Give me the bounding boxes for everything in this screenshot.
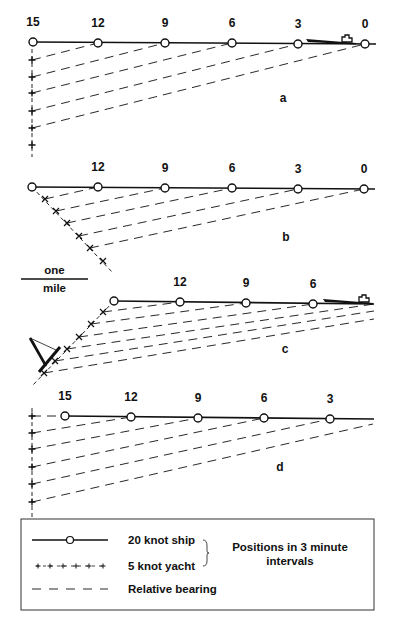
ship-time-label: 3 bbox=[327, 392, 334, 406]
bearing-line bbox=[90, 189, 364, 248]
legend-label-yacht: 5 knot yacht bbox=[128, 560, 195, 572]
bearing-line bbox=[32, 44, 365, 128]
yacht-position-plus-icon bbox=[29, 74, 36, 81]
legend-yacht-plus-icon bbox=[36, 564, 41, 569]
yacht-position-plus-icon bbox=[29, 108, 36, 115]
ship-position-circle-icon bbox=[29, 38, 37, 46]
ship-time-label: 6 bbox=[261, 391, 268, 405]
bearing-line bbox=[79, 189, 298, 236]
bearing-line bbox=[32, 43, 98, 60]
ship-time-label: 15 bbox=[58, 389, 72, 403]
legend-brace-icon bbox=[203, 540, 209, 566]
panel-label: c bbox=[282, 342, 289, 356]
sailboat-sail-inner bbox=[33, 341, 44, 363]
ship-position-circle-icon bbox=[294, 185, 302, 193]
bearing-line bbox=[45, 187, 98, 199]
ship-position-circle-icon bbox=[194, 414, 202, 422]
ship-position-circle-icon bbox=[361, 40, 369, 48]
yacht-position-plus-icon bbox=[29, 57, 36, 64]
ship-position-circle-icon bbox=[127, 413, 135, 421]
yacht-position-plus-icon bbox=[29, 481, 36, 488]
diagram-panel-d: 1512963d bbox=[29, 389, 375, 519]
yacht-position-plus-icon bbox=[29, 430, 36, 437]
legend-yacht-plus-icon bbox=[74, 564, 79, 569]
ship-time-label: 0 bbox=[362, 17, 369, 31]
yacht-position-plus-icon bbox=[29, 90, 36, 97]
yacht-position-plus-icon bbox=[29, 142, 36, 149]
legend-note-line1: Positions in 3 minute bbox=[232, 541, 348, 553]
scale-bar-bottom-label: mile bbox=[43, 282, 66, 294]
bearing-line bbox=[32, 419, 330, 484]
bearing-line bbox=[91, 303, 246, 324]
legend-label-ship: 20 knot ship bbox=[128, 534, 195, 546]
legend-note-line2: intervals bbox=[266, 555, 313, 567]
figure-canvas: 15129630a129630b1296c1512963d one mile 2… bbox=[0, 0, 396, 631]
ship-time-label: 12 bbox=[91, 16, 105, 30]
ship-position-circle-icon bbox=[61, 412, 69, 420]
legend-yacht-plus-icon bbox=[87, 564, 92, 569]
bearing-line bbox=[32, 44, 298, 111]
ship-time-label: 9 bbox=[162, 161, 169, 175]
legend-box bbox=[21, 519, 374, 610]
bearing-line bbox=[32, 424, 373, 502]
ship-time-label: 9 bbox=[195, 391, 202, 405]
scale-bar: one mile bbox=[21, 264, 88, 294]
ship-track-line bbox=[32, 187, 375, 189]
ship-position-circle-icon bbox=[294, 40, 302, 48]
relative-bearing-figure: 15129630a129630b1296c1512963d one mile 2… bbox=[0, 0, 396, 631]
ship-position-circle-icon bbox=[242, 299, 250, 307]
ship-time-label: 12 bbox=[91, 160, 105, 174]
sailboat-icon bbox=[30, 338, 60, 372]
bearing-line bbox=[32, 43, 232, 93]
diagram-panel-c: 1296c bbox=[30, 275, 374, 385]
yacht-position-plus-icon bbox=[29, 464, 36, 471]
legend-symbols bbox=[32, 537, 108, 590]
ship-time-label: 3 bbox=[295, 17, 302, 31]
ship-position-circle-icon bbox=[176, 298, 184, 306]
yacht-position-plus-icon bbox=[29, 446, 36, 453]
ship-time-label: 12 bbox=[124, 390, 138, 404]
diagram-panel-a: 15129630a bbox=[26, 15, 376, 157]
ship-time-label: 9 bbox=[243, 276, 250, 290]
diagram-panels: 15129630a129630b1296c1512963d bbox=[26, 15, 376, 519]
yacht-position-cross-icon bbox=[100, 258, 106, 264]
ship-position-circle-icon bbox=[94, 39, 102, 47]
ship-position-circle-icon bbox=[360, 185, 368, 193]
ship-position-circle-icon bbox=[309, 300, 317, 308]
ship-time-label: 6 bbox=[229, 161, 236, 175]
legend-yacht-plus-icon bbox=[61, 564, 66, 569]
legend-ship-circle-icon bbox=[67, 537, 74, 544]
bearing-line bbox=[56, 188, 165, 211]
ship-position-circle-icon bbox=[260, 414, 268, 422]
legend: 20 knot ship 5 knot yacht Relative beari… bbox=[21, 519, 374, 610]
ship-time-label: 15 bbox=[26, 15, 40, 29]
ship-position-circle-icon bbox=[28, 183, 36, 191]
bearing-line bbox=[32, 417, 131, 433]
yacht-position-plus-icon bbox=[29, 413, 36, 420]
ship-superstructure bbox=[342, 35, 352, 42]
ship-position-circle-icon bbox=[326, 415, 334, 423]
scale-bar-top-label: one bbox=[44, 264, 64, 276]
ship-time-label: 6 bbox=[229, 16, 236, 30]
ship-time-label: 6 bbox=[310, 277, 317, 291]
ship-position-circle-icon bbox=[161, 184, 169, 192]
legend-yacht-plus-icon bbox=[48, 564, 53, 569]
yacht-position-plus-icon bbox=[29, 125, 36, 132]
ship-position-circle-icon bbox=[94, 183, 102, 191]
ship-position-circle-icon bbox=[228, 184, 236, 192]
ship-position-circle-icon bbox=[110, 297, 118, 305]
ship-position-circle-icon bbox=[161, 39, 169, 47]
ship-time-label: 3 bbox=[295, 162, 302, 176]
bearing-line bbox=[32, 418, 198, 449]
ship-position-circle-icon bbox=[228, 39, 236, 47]
ship-superstructure bbox=[359, 295, 369, 302]
panel-label: a bbox=[280, 91, 287, 105]
ship-time-label: 9 bbox=[162, 16, 169, 30]
ship-time-label: 0 bbox=[361, 162, 368, 176]
ship-time-label: 12 bbox=[173, 275, 187, 289]
bearing-line bbox=[55, 311, 374, 361]
legend-label-bearing: Relative bearing bbox=[128, 583, 217, 595]
bearing-line bbox=[67, 188, 232, 223]
panel-label: b bbox=[282, 230, 289, 244]
yacht-position-plus-icon bbox=[29, 499, 36, 506]
